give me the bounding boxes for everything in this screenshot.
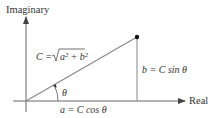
angle-label: θ: [62, 87, 67, 98]
complex-plane-diagram: Imaginary Real C = a² + b² θ a = C cos θ…: [0, 0, 211, 118]
real-axis-label: Real: [189, 95, 208, 106]
opposite-side-label: b = C sin θ: [142, 64, 187, 75]
angle-arc-icon: [55, 87, 58, 101]
imaginary-axis-label: Imaginary: [6, 4, 50, 15]
hypotenuse-line: [26, 37, 137, 101]
complex-point: [135, 35, 139, 39]
adjacent-side-label: a = C cos θ: [60, 104, 107, 115]
hypotenuse-label-prefix: C =: [36, 51, 52, 62]
hypotenuse-label-radicand: a² + b²: [60, 51, 89, 62]
